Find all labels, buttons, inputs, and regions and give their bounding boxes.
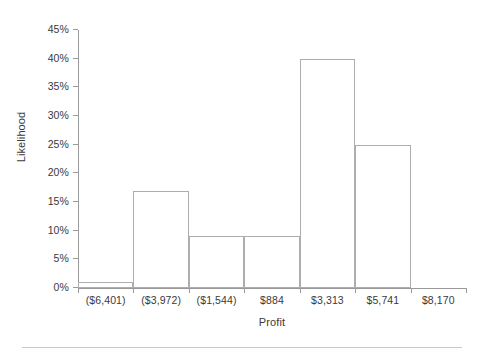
y-tick-label: 20% [48,166,69,178]
x-category-label-0: ($6,401) [78,294,133,306]
x-category-label-5: $5,741 [355,294,410,306]
bar-2 [189,236,244,288]
x-tick-mark [300,288,301,293]
x-axis-line [78,288,467,289]
y-tick-label: 10% [48,224,69,236]
x-tick-mark [133,288,134,293]
x-category-label-1: ($3,972) [133,294,188,306]
bar-3 [244,236,299,288]
y-axis-title: Likelihood [15,87,27,187]
x-category-label-6: $8,170 [411,294,466,306]
bar-5 [355,145,410,288]
y-tick-label: 35% [48,80,69,92]
x-category-label-4: $3,313 [300,294,355,306]
y-tick-label: 25% [48,138,69,150]
x-axis-title: Profit [78,316,466,328]
y-tick-label: 45% [48,23,69,35]
y-tick-label: 15% [48,195,69,207]
y-tick-label: 5% [54,252,69,264]
x-tick-mark [189,288,190,293]
x-tick-mark [466,288,467,293]
plot-area [78,30,466,288]
footer-divider [22,347,462,348]
x-tick-mark [355,288,356,293]
x-category-label-2: ($1,544) [189,294,244,306]
y-tick-label: 30% [48,109,69,121]
y-tick-label: 0% [54,281,69,293]
bar-0 [78,282,133,288]
bar-1 [133,191,188,288]
profit-likelihood-histogram: Likelihood 0%5%10%15%20%25%30%35%40%45% … [0,0,484,358]
x-tick-mark [411,288,412,293]
bar-4 [300,59,355,288]
x-category-label-3: $884 [244,294,299,306]
x-tick-mark [244,288,245,293]
y-tick-label: 40% [48,52,69,64]
x-tick-mark [78,288,79,293]
